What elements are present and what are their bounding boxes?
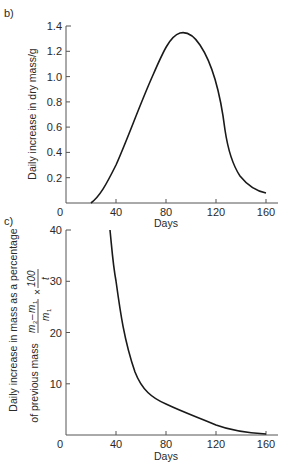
chart-c-x-label: Days [154,450,178,462]
chart-b-x-ticks: 0 40 80 120 160 [57,199,275,218]
svg-text:10: 10 [50,378,62,390]
chart-b-x-label: Days [154,217,178,229]
svg-text:30: 30 [50,275,62,287]
svg-text:0: 0 [57,438,63,450]
chart-c-x-ticks: 0 40 80 120 160 [57,431,275,450]
panel-c-label: c) [4,215,13,227]
svg-text:1: 1 [32,300,38,304]
svg-text:of previous mass: of previous mass [28,343,40,422]
svg-text:40: 40 [110,438,122,450]
chart-c: 40 30 20 10 0 40 80 120 160 Days Daily i… [7,224,278,462]
panel-b-label: b) [4,7,14,19]
svg-text:0: 0 [57,206,63,218]
svg-text:120: 120 [207,438,225,450]
svg-text:1: 1 [46,308,52,312]
svg-text:0.6: 0.6 [47,121,62,133]
svg-text:0.2: 0.2 [47,172,62,184]
svg-text:×: × [32,289,43,295]
chart-c-y-ticks: 40 30 20 10 [50,224,71,390]
svg-text:20: 20 [50,327,62,339]
chart-c-y-label-line1: Daily increase in mass as a percentage [7,228,19,411]
svg-text:m: m [40,313,51,321]
svg-text:0.8: 0.8 [47,96,62,108]
svg-text:m: m [26,305,37,313]
svg-text:160: 160 [257,438,275,450]
svg-text:160: 160 [257,206,275,218]
svg-text:80: 80 [160,438,172,450]
chart-b-y-ticks: 1.4 1.2 1.0 0.8 0.6 0.4 0.2 [47,20,71,184]
svg-text:40: 40 [110,206,122,218]
svg-text:m: m [26,325,37,333]
figure: b) 1.4 1.2 1.0 0.8 0.6 0.4 0.2 [0,0,286,463]
svg-text:–: – [26,314,37,320]
svg-text:1.2: 1.2 [47,45,62,57]
svg-text:40: 40 [50,224,62,236]
chart-b-y-label: Daily increase in dry mass/g [26,48,38,179]
svg-text:100: 100 [26,270,37,287]
chart-b-curve [91,33,266,203]
svg-text:0.4: 0.4 [47,146,62,158]
svg-text:1.0: 1.0 [47,71,62,83]
svg-text:1.4: 1.4 [47,20,62,32]
chart-c-y-label-line2: of previous mass m 2 – m 1 m 1 × 100 t [26,269,52,423]
svg-text:120: 120 [207,206,225,218]
chart-c-curve [110,230,266,434]
chart-b: 1.4 1.2 1.0 0.8 0.6 0.4 0.2 0 40 80 120 … [26,20,278,229]
